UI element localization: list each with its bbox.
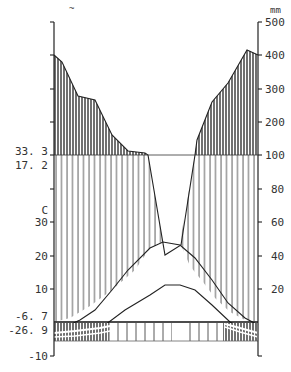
annotation-mean-annual-temp: 17. 2 (0, 160, 48, 171)
right-tick-60: 60 (271, 217, 284, 228)
precip-above-100-area-right (195, 50, 258, 155)
annotation-mean-max: 33. 3 (0, 146, 48, 157)
frost-probable-left (109, 323, 172, 341)
right-tick-20: 20 (271, 284, 284, 295)
right-tick-40: 40 (271, 251, 284, 262)
left-axis-unit: C (0, 205, 48, 216)
top-mark: ~ (69, 3, 74, 14)
frost-probable-right (188, 323, 223, 341)
left-tick-10: 10 (0, 284, 48, 295)
left-tick-20: 20 (0, 251, 48, 262)
humid-area-left (54, 155, 165, 322)
annotation-mean-min: -6. 7 (0, 311, 48, 322)
right-tick-500: 500 (265, 17, 285, 28)
left-tick-minus10: -10 (0, 351, 48, 362)
left-tick-30: 30 (0, 217, 48, 228)
right-tick-200: 200 (265, 117, 285, 128)
right-tick-300: 300 (265, 84, 285, 95)
right-tick-100: 100 (265, 150, 285, 161)
right-tick-400: 400 (265, 50, 285, 61)
right-axis-unit: mm (270, 5, 281, 16)
annotation-absolute-min: -26. 9 (0, 325, 48, 336)
precip-above-100-area (54, 55, 148, 155)
humid-area-right (180, 155, 258, 322)
right-tick-80: 80 (271, 184, 284, 195)
